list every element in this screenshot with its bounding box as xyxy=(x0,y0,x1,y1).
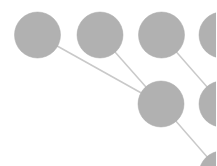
node-n6 xyxy=(199,81,216,127)
node-n2 xyxy=(77,12,123,58)
node-n5 xyxy=(138,81,184,127)
node-n7 xyxy=(199,151,216,166)
node-n4 xyxy=(199,12,216,58)
node-link-diagram xyxy=(0,0,216,166)
nodes-layer xyxy=(15,12,217,166)
node-n3 xyxy=(139,12,185,58)
node-n1 xyxy=(15,12,61,58)
links-layer xyxy=(38,35,217,166)
